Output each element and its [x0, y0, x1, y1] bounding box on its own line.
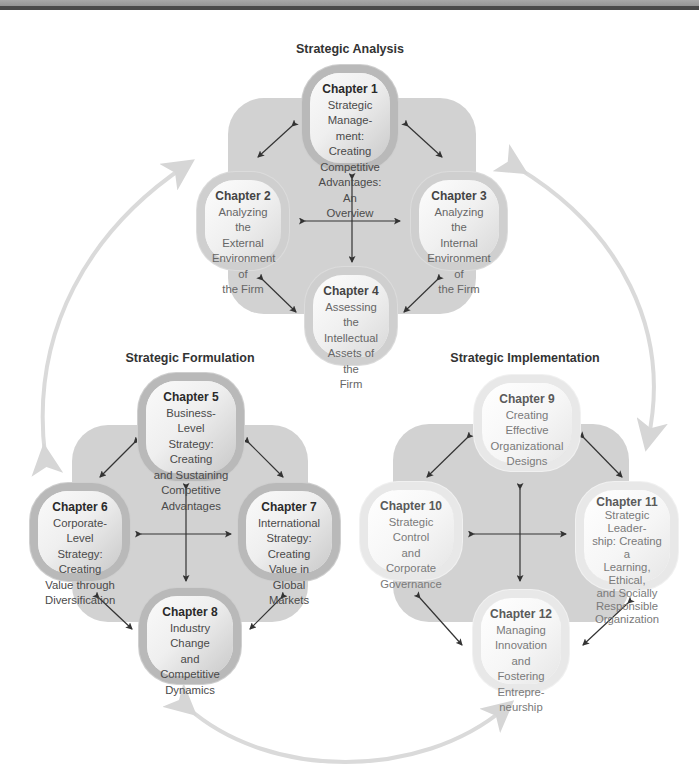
chapter-8-card: Chapter 8 Industry Change and Competitiv… — [147, 596, 233, 676]
chapter-label: Chapter 2 — [212, 189, 274, 205]
chapter-9-card: Chapter 9 Creating Effective Organizatio… — [482, 383, 572, 463]
chapter-label: Chapter 12 — [488, 607, 554, 623]
chapter-label: Chapter 5 — [153, 390, 229, 406]
chapter-4-card: Chapter 4 Assessing the Intellectual Ass… — [313, 275, 389, 357]
chapter-6-card: Chapter 6 Corporate-Level Strategy: Crea… — [38, 491, 122, 573]
chapter-label: Chapter 8 — [154, 605, 226, 621]
chapter-2-card: Chapter 2 Analyzing the External Environ… — [205, 180, 281, 262]
chapter-12-card: Chapter 12 Managing Innovation and Foste… — [481, 598, 561, 684]
chapter-label: Chapter 1 — [317, 82, 383, 98]
chapter-label: Chapter 3 — [426, 189, 492, 205]
chapter-label: Chapter 11 — [591, 496, 663, 509]
chapter-10-card: Chapter 10 Strategic Control and Corpora… — [368, 490, 454, 572]
chapter-label: Chapter 6 — [45, 500, 115, 516]
chapter-1-card: Chapter 1 Strategic Manage- ment: Creati… — [310, 73, 390, 163]
chapter-label: Chapter 7 — [253, 500, 325, 516]
chapter-11-card: Chapter 11 Strategic Leader- ship: Creat… — [584, 490, 670, 582]
chapter-label: Chapter 9 — [489, 392, 565, 408]
chapter-7-card: Chapter 7 International Strategy: Creati… — [246, 491, 332, 573]
chapter-label: Chapter 10 — [375, 499, 447, 515]
chapter-label: Chapter 4 — [320, 284, 382, 300]
chapter-5-card: Chapter 5 Business-Level Strategy: Creat… — [146, 381, 236, 473]
chapter-3-card: Chapter 3 Analyzing the Internal Environ… — [419, 180, 499, 262]
